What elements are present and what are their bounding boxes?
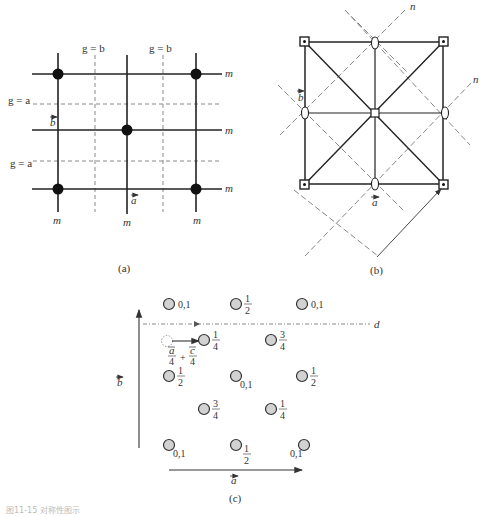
svg-text:m: m <box>123 216 131 228</box>
svg-text:m: m <box>225 124 233 136</box>
svg-text:m: m <box>193 214 201 226</box>
svg-text:a: a <box>372 196 378 208</box>
svg-text:4: 4 <box>280 410 285 421</box>
svg-text:m: m <box>53 214 61 226</box>
svg-text:b: b <box>50 116 56 128</box>
svg-text:m: m <box>225 182 233 194</box>
svg-text:g = a: g = a <box>10 157 32 169</box>
svg-text:c: c <box>190 344 195 356</box>
figure-footer: 图11-15 对称性图示 <box>6 504 80 515</box>
svg-text:4: 4 <box>169 356 174 367</box>
svg-text:3: 3 <box>280 329 285 340</box>
svg-text:3: 3 <box>213 398 218 409</box>
svg-text:m: m <box>225 67 233 79</box>
figure-canvas: g = b g = b g = a g = a m m m m m m b a … <box>0 0 486 517</box>
svg-text:n: n <box>410 0 416 12</box>
svg-text:1: 1 <box>245 293 250 304</box>
svg-text:0,1: 0,1 <box>311 299 324 310</box>
caption-b: (b) <box>370 264 383 277</box>
svg-text:0,1: 0,1 <box>240 379 253 390</box>
svg-text:4: 4 <box>190 356 195 367</box>
svg-text:2: 2 <box>178 377 183 388</box>
svg-text:g = b: g = b <box>82 42 105 54</box>
svg-text:+: + <box>180 352 186 363</box>
svg-text:b: b <box>117 376 123 388</box>
svg-text:1: 1 <box>280 398 285 409</box>
svg-text:1: 1 <box>244 443 249 454</box>
svg-text:4: 4 <box>213 341 218 352</box>
svg-text:2: 2 <box>244 455 249 466</box>
panel-c: 0,1 1 2 0,1 1 4 3 4 1 2 0,1 1 2 3 4 1 4 … <box>116 293 380 505</box>
svg-text:d: d <box>374 318 380 330</box>
panel-a: g = b g = b g = a g = a m m m m m m b a … <box>8 42 233 275</box>
svg-text:1: 1 <box>213 329 218 340</box>
svg-text:2: 2 <box>245 305 250 316</box>
svg-text:g = a: g = a <box>8 94 30 106</box>
caption-a: (a) <box>118 262 131 275</box>
svg-text:1: 1 <box>178 365 183 376</box>
svg-text:1: 1 <box>311 365 316 376</box>
svg-text:0,1: 0,1 <box>173 448 186 459</box>
panel-b: n n b a (b) <box>278 0 479 277</box>
svg-text:2: 2 <box>311 377 316 388</box>
svg-text:b: b <box>298 91 304 103</box>
svg-text:4: 4 <box>280 341 285 352</box>
svg-text:a: a <box>169 344 175 356</box>
svg-text:g = b: g = b <box>149 42 172 54</box>
svg-text:0,1: 0,1 <box>290 448 303 459</box>
svg-text:0,1: 0,1 <box>178 299 191 310</box>
svg-text:a: a <box>131 194 137 206</box>
caption-c: (c) <box>229 492 242 505</box>
svg-text:n: n <box>473 73 479 85</box>
svg-text:4: 4 <box>213 410 218 421</box>
